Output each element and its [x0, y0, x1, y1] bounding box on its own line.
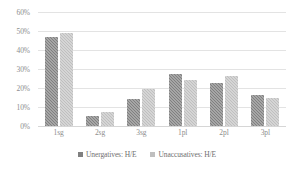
legend-item[interactable]: Unaccusatives: H/E: [150, 150, 216, 159]
bar-group: [245, 12, 286, 126]
x-axis-tick-label: 1pl: [162, 128, 203, 137]
bar-group: [38, 12, 79, 126]
legend-swatch-icon: [150, 152, 155, 157]
bars-layer: [38, 12, 286, 126]
bar-chart: 0%10%20%30%40%50%60% 1sg2sg3sg1pl2pl3pl …: [0, 0, 294, 171]
bar: [60, 33, 73, 126]
bar-group: [79, 12, 120, 126]
bar: [210, 83, 223, 126]
legend-label: Unergatives: H/E: [86, 150, 137, 159]
bar: [45, 37, 58, 126]
bar: [266, 98, 279, 126]
y-axis-tick-label: 30%: [17, 65, 30, 74]
bar-group: [121, 12, 162, 126]
x-axis-tick-label: 2pl: [203, 128, 244, 137]
y-axis-tick-label: 10%: [17, 103, 30, 112]
y-axis-tick-label: 50%: [17, 27, 30, 36]
x-axis-tick-label: 3pl: [245, 128, 286, 137]
y-axis-tick-label: 20%: [17, 84, 30, 93]
bar: [127, 99, 140, 126]
x-axis-tick-label: 3sg: [121, 128, 162, 137]
bar-group: [203, 12, 244, 126]
bar: [184, 80, 197, 126]
bar-group: [162, 12, 203, 126]
bar: [86, 116, 99, 126]
bar: [101, 112, 114, 126]
legend-item[interactable]: Unergatives: H/E: [78, 150, 137, 159]
bar: [142, 89, 155, 126]
y-axis-tick-label: 60%: [17, 8, 30, 17]
x-axis-tick-label: 1sg: [38, 128, 79, 137]
x-axis-tick-label: 2sg: [79, 128, 120, 137]
legend-label: Unaccusatives: H/E: [158, 150, 216, 159]
y-axis-tick-label: 40%: [17, 46, 30, 55]
bar: [251, 95, 264, 126]
legend: Unergatives: H/EUnaccusatives: H/E: [0, 150, 294, 159]
bar: [169, 74, 182, 126]
y-axis: 0%10%20%30%40%50%60%: [0, 12, 34, 126]
legend-swatch-icon: [78, 152, 83, 157]
x-axis: 1sg2sg3sg1pl2pl3pl: [38, 128, 286, 137]
bar: [225, 76, 238, 126]
axis-baseline: [38, 126, 286, 127]
y-axis-tick-label: 0%: [20, 122, 30, 131]
